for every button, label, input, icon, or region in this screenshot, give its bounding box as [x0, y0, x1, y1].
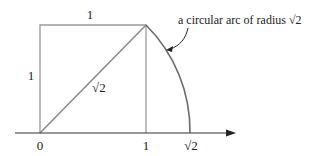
circular-arc	[146, 25, 190, 133]
label-diagonal: √2	[92, 80, 106, 95]
diagram: 1 1 √2 0 1 √2 a circular arc of radius √…	[0, 0, 320, 156]
label-tick-sqrt2: √2	[184, 138, 198, 153]
diagonal-line	[40, 25, 146, 133]
label-annotation: a circular arc of radius √2	[178, 13, 302, 27]
label-top-side: 1	[87, 7, 94, 22]
axis-arrow-icon	[226, 130, 236, 137]
annotation-pointer	[170, 28, 188, 49]
label-origin: 0	[37, 138, 44, 153]
diagram-svg: 1 1 √2 0 1 √2 a circular arc of radius √…	[0, 0, 320, 156]
label-left-side: 1	[28, 68, 35, 83]
label-tick-one: 1	[143, 138, 150, 153]
